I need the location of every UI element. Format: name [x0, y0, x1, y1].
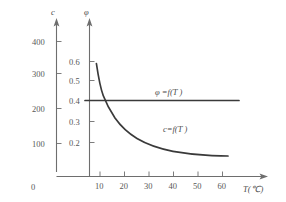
c-axis-ticklabel-200: 200	[32, 104, 45, 114]
chart-figure: c 400 300 200 100 0 φ 0.6 0.5 0.4 0.3	[0, 0, 286, 202]
c-axis-ticklabel-300: 300	[32, 69, 45, 79]
phi-axis-ticklabel-05: 0.5	[69, 76, 80, 86]
c-axis-group: c 400 300 200 100 0	[31, 7, 62, 192]
t-axis-ticklabel-50: 50	[193, 181, 202, 191]
phi-axis-ticklabel-04: 0.4	[69, 96, 80, 106]
c-axis-label: c	[51, 7, 55, 17]
phi-axis-ticklabel-02: 0.2	[69, 138, 80, 148]
phi-axis-ticklabel-03: 0.3	[69, 117, 80, 127]
series-group	[85, 64, 239, 157]
t-axis-ticklabel-30: 30	[144, 181, 153, 191]
c-axis-ticklabel-400: 400	[32, 37, 45, 47]
t-axis-label: T(℃)	[243, 184, 264, 194]
t-axis-group: 10 20 30 40 50 60 T(℃)	[57, 172, 269, 195]
chart-plot-area: c 400 300 200 100 0 φ 0.6 0.5 0.4 0.3	[0, 0, 286, 202]
phi-curve-annotation: φ =f(T )	[155, 87, 182, 97]
c-axis-ticklabel-100: 100	[32, 139, 45, 149]
c-axis-origin-label: 0	[31, 182, 35, 192]
t-axis-ticklabel-60: 60	[218, 181, 227, 191]
c-decay-curve	[96, 64, 228, 157]
phi-axis-label: φ	[84, 7, 89, 17]
c-curve-annotation: c=f(T )	[163, 124, 187, 134]
annotation-group: φ =f(T ) c=f(T )	[155, 87, 187, 134]
t-axis-ticklabel-20: 20	[120, 181, 129, 191]
phi-axis-group: φ 0.6 0.5 0.4 0.3 0.2	[69, 7, 95, 176]
t-axis-ticklabel-10: 10	[95, 181, 104, 191]
phi-axis-ticklabel-06: 0.6	[69, 57, 80, 67]
t-axis-ticklabel-40: 40	[169, 181, 178, 191]
